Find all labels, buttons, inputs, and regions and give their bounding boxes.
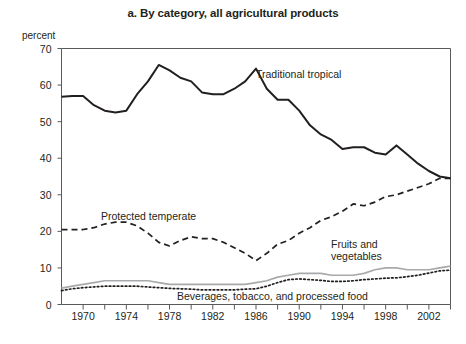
series-label-2: Fruits and vegetables (331, 238, 382, 262)
series-lines (62, 65, 451, 291)
series-label-1: Protected temperate (101, 210, 196, 222)
y-axis-tick-label: 10 (26, 262, 52, 274)
x-axis-tick-label: 1970 (63, 310, 103, 322)
series-line-0 (62, 65, 451, 178)
y-axis-tick-label: 50 (26, 116, 52, 128)
y-axis-tick-label: 20 (26, 225, 52, 237)
x-axis-tick-label: 1990 (279, 310, 319, 322)
tick-marks (58, 49, 451, 310)
x-axis-tick-label: 1994 (322, 310, 362, 322)
x-axis-tick-label: 2002 (409, 310, 449, 322)
axis-lines (62, 49, 451, 305)
x-axis-tick-label: 1978 (150, 310, 190, 322)
chart-container: a. By category, all agricultural product… (0, 0, 466, 344)
y-axis-tick-label: 30 (26, 189, 52, 201)
x-axis-tick-label: 1974 (106, 310, 146, 322)
series-label-0: Traditional tropical (256, 68, 341, 80)
y-axis-tick-label: 70 (26, 43, 52, 55)
series-label-3: Beverages, tobacco, and processed food (177, 290, 368, 302)
y-axis-tick-label: 0 (26, 299, 52, 311)
x-axis-tick-label: 1998 (366, 310, 406, 322)
y-axis-tick-label: 40 (26, 152, 52, 164)
x-axis-tick-label: 1982 (193, 310, 233, 322)
series-line-2 (62, 266, 451, 288)
y-axis-tick-label: 60 (26, 79, 52, 91)
x-axis-tick-label: 1986 (236, 310, 276, 322)
